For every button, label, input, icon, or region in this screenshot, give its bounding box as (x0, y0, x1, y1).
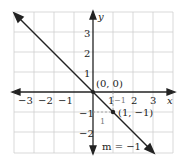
slope-label: m = −1 (102, 141, 141, 152)
x-tick-neg3: −3 (18, 95, 33, 106)
point-1-neg1 (111, 110, 115, 114)
point-origin (91, 90, 95, 94)
y-tick-neg2: −2 (79, 128, 94, 139)
rise-label: −1 (114, 96, 126, 105)
x-axis-label: x (167, 95, 173, 106)
x-tick-3: 3 (150, 95, 156, 106)
coordinate-graph: −3 −2 −1 1 2 3 x 3 2 1 −1 −2 y (0, 0) (1… (0, 0, 183, 162)
x-tick-neg2: −2 (38, 95, 53, 106)
point-label: (1, −1) (118, 107, 153, 118)
origin-label: (0, 0) (96, 78, 123, 89)
y-tick-1: 1 (84, 68, 90, 79)
x-tick-2: 2 (131, 95, 137, 106)
y-tick-3: 3 (84, 28, 90, 39)
y-tick-neg1: −1 (79, 108, 94, 119)
y-axis-label: y (97, 11, 104, 22)
x-tick-neg1: −1 (58, 95, 73, 106)
run-label: 1 (100, 117, 105, 126)
y-tick-2: 2 (84, 48, 90, 59)
